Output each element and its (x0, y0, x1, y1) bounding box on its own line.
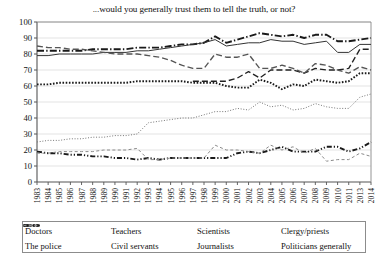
y-tick-label: 10 (23, 161, 32, 171)
y-tick-label: 70 (23, 65, 32, 75)
x-tick-label: 2000 (222, 188, 231, 203)
legend-label: The police (25, 241, 62, 251)
y-tick-label: 60 (23, 81, 32, 91)
y-tick-label: 20 (23, 145, 32, 155)
plot-area: 0102030405060708090100198319841985198619… (0, 0, 388, 220)
legend-label: Politicians generally (281, 241, 351, 251)
legend-swatch-icon (23, 222, 40, 229)
x-tick-label: 2007 (300, 188, 309, 203)
x-tick-label: 1986 (66, 188, 75, 203)
legend-label: Teachers (111, 226, 141, 236)
x-tick-label: 2010 (334, 188, 343, 203)
x-tick-label: 2009 (322, 188, 331, 203)
x-tick-label: 2008 (311, 188, 320, 203)
x-tick-label: 1999 (211, 188, 220, 203)
y-tick-label: 50 (23, 97, 32, 107)
legend-item-the-police[interactable]: The police (25, 241, 111, 251)
series-line-journalists (37, 142, 371, 160)
x-tick-label: 2005 (278, 188, 287, 203)
x-tick-label: 1989 (100, 188, 109, 203)
legend-label: Scientists (197, 226, 230, 236)
legend-label: Clergy/priests (281, 226, 329, 236)
x-tick-label: 1991 (122, 188, 131, 203)
x-tick-label: 1987 (78, 188, 87, 203)
x-tick-label: 1992 (133, 188, 142, 203)
legend-label: Journalists (197, 241, 234, 251)
x-tick-label: 2003 (256, 188, 265, 203)
x-tick-label: 1983 (33, 188, 42, 203)
trust-line-chart: ...would you generally trust them to tel… (0, 0, 388, 264)
y-tick-label: 80 (23, 49, 32, 59)
x-tick-label: 1993 (144, 188, 153, 203)
x-tick-label: 2011 (345, 188, 354, 203)
x-tick-label: 1997 (189, 188, 198, 203)
x-tick-label: 2006 (289, 188, 298, 203)
chart-legend: DoctorsTeachersScientistsClergy/priestsT… (22, 221, 366, 253)
y-tick-label: 40 (23, 113, 32, 123)
y-tick-label: 30 (23, 129, 32, 139)
x-tick-label: 1994 (155, 188, 164, 203)
x-tick-label: 1988 (89, 188, 98, 203)
x-tick-label: 2002 (245, 188, 254, 203)
y-tick-label: 0 (28, 177, 32, 187)
y-tick-label: 90 (23, 33, 32, 43)
x-tick-label: 2001 (233, 188, 242, 203)
x-tick-label: 1985 (55, 188, 64, 203)
x-tick-label: 1984 (44, 188, 53, 203)
x-tick-label: 2014 (367, 188, 376, 203)
x-tick-label: 1998 (200, 188, 209, 203)
x-tick-label: 1995 (167, 188, 176, 203)
x-tick-label: 1990 (111, 188, 120, 203)
legend-item-teachers[interactable]: Teachers (111, 226, 197, 236)
legend-item-politicians-generally[interactable]: Politicians generally (281, 241, 367, 251)
x-tick-label: 1996 (178, 188, 187, 203)
legend-item-clergy-priests[interactable]: Clergy/priests (281, 226, 367, 236)
legend-item-journalists[interactable]: Journalists (197, 241, 281, 251)
x-tick-label: 2004 (267, 188, 276, 203)
legend-item-civil-servants[interactable]: Civil servants (111, 241, 197, 251)
x-tick-label: 2013 (356, 188, 365, 203)
legend-label: Civil servants (111, 241, 159, 251)
legend-item-scientists[interactable]: Scientists (197, 226, 281, 236)
y-tick-label: 100 (19, 17, 32, 27)
